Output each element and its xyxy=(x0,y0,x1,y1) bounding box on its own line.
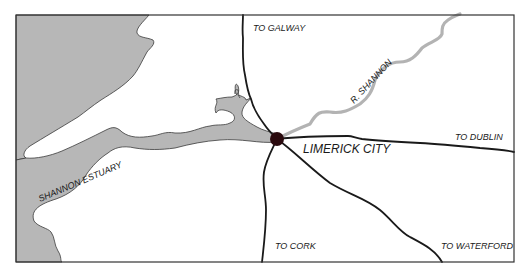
label-to-waterford: TO WATERFORD xyxy=(441,241,514,251)
label-to-dublin: TO DUBLIN xyxy=(455,132,503,142)
label-to-cork: TO CORK xyxy=(275,241,317,251)
label-to-galway: TO GALWAY xyxy=(253,23,306,33)
label-river-shannon: R. SHANNON xyxy=(348,57,394,106)
city-marker-limerick[interactable] xyxy=(270,132,284,146)
limerick-map: TO GALWAY TO DUBLIN TO CORK TO WATERFORD… xyxy=(0,0,530,275)
road-to-galway xyxy=(243,15,277,139)
label-limerick-city: LIMERICK CITY xyxy=(303,142,391,156)
